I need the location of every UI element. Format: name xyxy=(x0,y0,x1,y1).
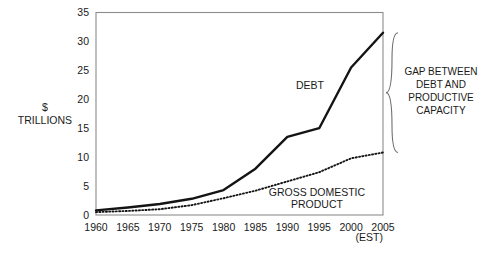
y-tick-label-20: 20 xyxy=(77,93,89,105)
gap-annotation-line-4: CAPACITY xyxy=(416,105,466,116)
chart-background xyxy=(0,0,488,255)
gdp-series-label-line-2: PRODUCT xyxy=(291,198,344,210)
x-tick-label-1980: 1980 xyxy=(212,221,236,233)
x-tick-label-1960: 1960 xyxy=(84,221,108,233)
gap-annotation-line-3: PRODUCTIVE xyxy=(408,92,474,103)
x-tick-label-1985: 1985 xyxy=(244,221,268,233)
y-tick-label-30: 30 xyxy=(77,35,89,47)
x-tick-label-1970: 1970 xyxy=(148,221,172,233)
y-axis-title-line-2: TRILLIONS xyxy=(18,114,72,126)
gap-annotation-line-1: GAP BETWEEN xyxy=(404,66,477,77)
y-axis-title-line-1: $ xyxy=(42,101,48,113)
gdp-series-label-line-1: GROSS DOMESTIC xyxy=(269,186,366,198)
x-tick-label-1965: 1965 xyxy=(116,221,140,233)
x-axis-est-note: (EST) xyxy=(356,231,383,243)
y-tick-label-5: 5 xyxy=(83,180,89,192)
debt-series-label: DEBT xyxy=(296,79,325,91)
x-tick-label-1990: 1990 xyxy=(276,221,300,233)
gap-annotation-line-2: DEBT AND xyxy=(416,79,466,90)
x-tick-label-1975: 1975 xyxy=(180,221,204,233)
debt-vs-gdp-chart: 05101520253035 1960196519701975198019851… xyxy=(0,0,488,255)
y-tick-label-25: 25 xyxy=(77,64,89,76)
y-tick-label-10: 10 xyxy=(77,151,89,163)
y-tick-label-35: 35 xyxy=(77,6,89,18)
y-tick-label-0: 0 xyxy=(83,209,89,221)
x-tick-label-1995: 1995 xyxy=(308,221,332,233)
chart-canvas: 05101520253035 1960196519701975198019851… xyxy=(0,0,488,255)
y-tick-label-15: 15 xyxy=(77,122,89,134)
